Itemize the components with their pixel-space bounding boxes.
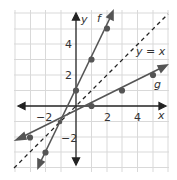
tick-x-neg2: −2 xyxy=(36,111,52,124)
intersection-point xyxy=(58,120,63,125)
f-label: f xyxy=(97,12,103,25)
x-axis-label: x xyxy=(157,109,165,122)
point-f-3 xyxy=(89,57,94,62)
point-g-1 xyxy=(28,135,33,140)
coordinate-plane: y x f g y = x −2 2 4 4 2 −2 xyxy=(0,0,177,180)
tick-x-2: 2 xyxy=(104,111,111,124)
tick-x-4: 4 xyxy=(134,111,141,124)
point-g-3 xyxy=(120,88,125,93)
grid xyxy=(14,10,169,172)
point-f-4 xyxy=(105,26,110,31)
tick-y-neg2: −2 xyxy=(61,132,77,145)
point-g-2 xyxy=(89,104,94,109)
yx-label: y = x xyxy=(135,45,166,58)
point-f-1 xyxy=(43,150,48,155)
point-g-4 xyxy=(151,73,156,78)
g-label: g xyxy=(154,78,161,91)
y-axis-label: y xyxy=(80,13,88,26)
tick-y-2: 2 xyxy=(65,69,72,82)
tick-y-4: 4 xyxy=(65,38,72,51)
point-f-2 xyxy=(74,88,79,93)
